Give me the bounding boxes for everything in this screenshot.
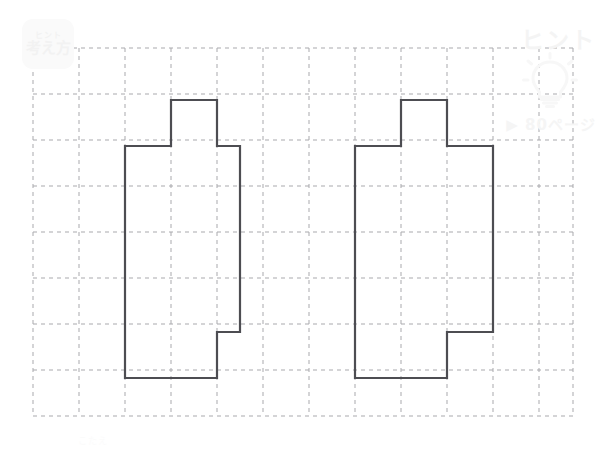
figure-group	[0, 0, 610, 451]
figure-right	[355, 100, 493, 378]
worksheet-canvas: ヒント 考え方 ヒント ▶ 80ページ こたえ	[0, 0, 610, 451]
figure-left	[125, 100, 240, 378]
